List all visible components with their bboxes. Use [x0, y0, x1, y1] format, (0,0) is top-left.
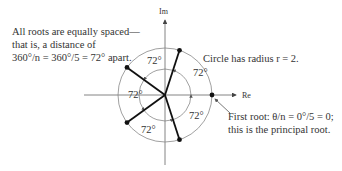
svg-text:72°: 72°: [189, 110, 204, 121]
svg-text:72°: 72°: [141, 124, 156, 135]
roots-diagram: Re Im 72° 72° 72° 72° 72°: [0, 0, 342, 171]
root-1: [177, 48, 182, 53]
im-label: Im: [159, 7, 169, 16]
svg-text:72°: 72°: [128, 89, 143, 100]
root-0: [210, 93, 215, 98]
svg-text:72°: 72°: [193, 67, 208, 78]
root-3: [125, 120, 130, 125]
first-root-pointer: [215, 99, 230, 113]
re-label: Re: [242, 91, 251, 100]
root-4: [177, 137, 182, 142]
svg-text:72°: 72°: [147, 55, 162, 66]
root-2: [125, 65, 130, 70]
